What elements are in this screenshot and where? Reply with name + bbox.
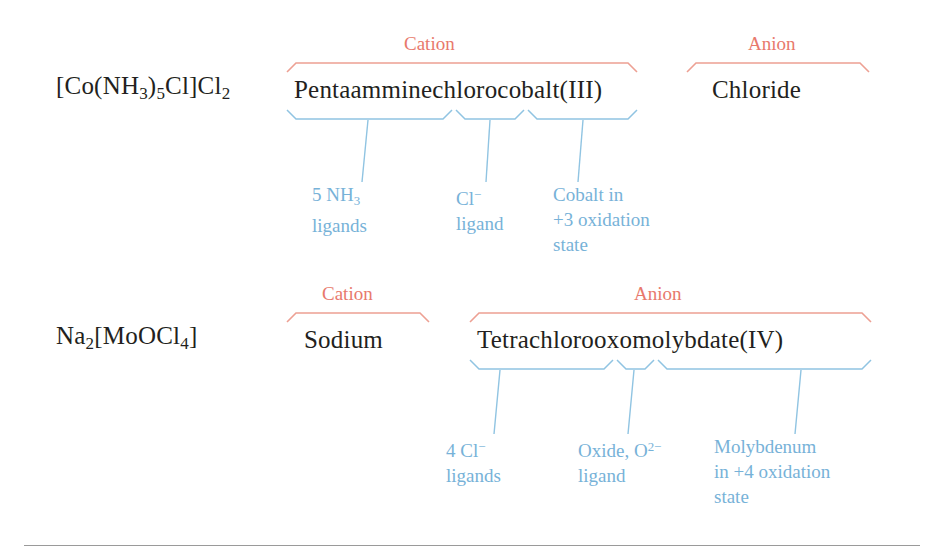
role-label-anion-row1: Anion [748,33,796,55]
leader-row1-1 [362,120,368,182]
role-label-anion-row2: Anion [634,283,682,305]
leader-row2-1 [494,370,500,434]
annotation-row2-ligands-cl: 4 Cl−ligands [446,434,566,488]
leader-row2-3 [795,370,801,434]
ligand-brace-row2-seg3 [658,360,871,369]
role-label-cation-row2: Cation [322,283,373,305]
part-name-cation-row1: Pentaamminechlorocobalt(III) [294,76,602,104]
ligand-brace-row1-seg3 [528,110,637,119]
cation-brace-row1 [287,63,637,72]
part-name-anion-row1: Chloride [712,76,801,104]
leader-row2-2 [628,370,634,434]
formula-example-2: Na2[MoOCl4] [56,322,197,354]
leader-row1-2 [486,120,490,182]
part-name-cation-row2: Sodium [304,326,383,354]
annotation-row1-oxidation-state: Cobalt in+3 oxidationstate [553,182,713,257]
anion-brace-row1 [687,63,869,72]
annotation-row2-oxidation-state: Molybdenumin +4 oxidationstate [714,434,904,509]
formula-example-1: [Co(NH3)5Cl]Cl2 [56,72,230,104]
annotation-row1-ligand-cl: Cl−ligand [456,182,566,236]
ligand-brace-row1-seg1 [287,110,452,119]
part-name-anion-row2: Tetrachlorooxomolybdate(IV) [477,326,783,354]
bottom-divider [24,545,920,546]
ligand-brace-row2-seg1 [470,360,613,369]
role-label-cation-row1: Cation [404,33,455,55]
diagram-canvas: [Co(NH3)5Cl]Cl2 Cation Pentaamminechloro… [0,0,933,553]
annotation-row2-ligand-oxide: Oxide, O2−ligand [578,434,718,488]
cation-brace-row2 [287,313,429,322]
annotation-row1-ligands-nh3: 5 NH3ligands [312,182,442,238]
ligand-brace-row2-seg2 [617,360,654,369]
leader-row1-3 [578,120,583,182]
anion-brace-row2 [470,313,871,322]
ligand-brace-row1-seg2 [456,110,524,119]
